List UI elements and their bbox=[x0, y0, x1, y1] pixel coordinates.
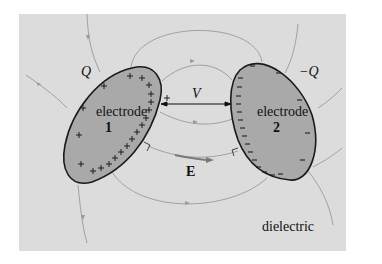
capacitor-diagram bbox=[0, 0, 382, 264]
electrode-1-label: electrode bbox=[96, 104, 147, 120]
charge-negative-label: −Q bbox=[299, 64, 319, 80]
voltage-label: V bbox=[192, 86, 201, 102]
electrode-2-label: electrode bbox=[257, 104, 308, 120]
field-label: E bbox=[186, 164, 195, 180]
dielectric-label: dielectric bbox=[262, 219, 314, 235]
electrode-2-number: 2 bbox=[273, 120, 280, 136]
charge-positive-label: Q bbox=[81, 64, 91, 80]
electrode-1-number: 1 bbox=[105, 120, 112, 136]
